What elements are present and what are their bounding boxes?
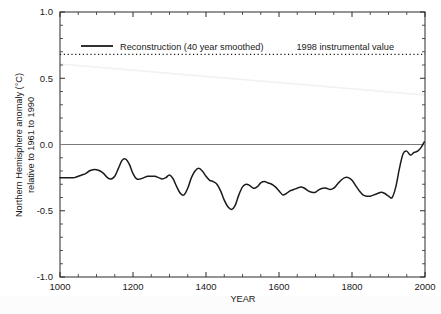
annotation-instrumental-value: 1998 instrumental value [296, 42, 394, 52]
x-tick-label: 1800 [341, 281, 362, 292]
y-tick-label: 0.0 [40, 139, 53, 150]
y-tick-label: -0.5 [37, 205, 53, 216]
y-axis-title-line2: relative to 1961 to 1990 [26, 97, 36, 193]
scan-artifact-band [0, 296, 441, 314]
legend-label-reconstruction: Reconstruction (40 year smoothed) [120, 42, 264, 52]
x-tick-label: 1000 [49, 281, 70, 292]
x-tick-label: 1600 [268, 281, 289, 292]
temperature-reconstruction-chart: -1.0-0.50.00.51.0 1000120014001600180020… [0, 0, 441, 314]
x-axis-title: YEAR [230, 294, 255, 304]
x-tick-label: 1400 [195, 281, 216, 292]
x-tick-label: 2000 [414, 281, 435, 292]
y-tick-label: 0.5 [40, 73, 53, 84]
x-tick-label: 1200 [122, 281, 143, 292]
y-axis-title-line1: Northern Hemisphere anomaly (°C) [14, 73, 24, 217]
y-tick-label: 1.0 [40, 6, 53, 17]
